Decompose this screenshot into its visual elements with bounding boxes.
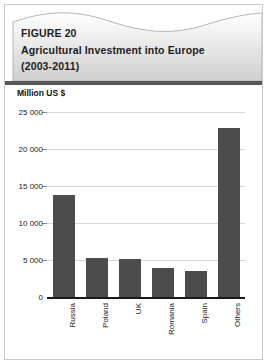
bar-russia [53, 195, 75, 297]
y-tick-label-15000: 15 000 [19, 182, 43, 191]
gridline-5000 [47, 260, 245, 261]
figure-number: FIGURE 20 [21, 25, 246, 41]
bar-romania [152, 268, 174, 297]
figure-header: FIGURE 20 Agricultural Investment into E… [5, 5, 262, 81]
plot-area: 0 5 00010 00015 00020 00025 000RussiaPol… [5, 85, 262, 360]
bar-poland [86, 258, 108, 297]
y-tick-label-20000: 20 000 [19, 145, 43, 154]
y-tick-label-10000: 10 000 [19, 219, 43, 228]
bar-chart: Million US $ 0 5 00010 00015 00020 00025… [5, 85, 262, 360]
x-tick-label-poland: Poland [101, 303, 110, 328]
bar-spain [185, 271, 207, 297]
y-tick-label-5000: 5 000 [23, 256, 43, 265]
gridline-25000 [47, 112, 245, 113]
figure-title: Agricultural Investment into Europe [21, 42, 246, 58]
x-tick-label-uk: UK [134, 303, 143, 314]
x-tick-label-russia: Russia [68, 303, 77, 327]
figure-header-text: FIGURE 20 Agricultural Investment into E… [21, 25, 246, 74]
figure-card: FIGURE 20 Agricultural Investment into E… [4, 4, 263, 360]
y-tick-label-0: 0 [39, 293, 43, 302]
x-tick-label-others: Others [233, 303, 242, 327]
bar-others [218, 128, 240, 297]
x-tick-label-spain: Spain [200, 303, 209, 323]
gridline-10000 [47, 223, 245, 224]
bar-uk [119, 259, 141, 297]
figure-period: (2003-2011) [21, 58, 246, 74]
y-tick-label-25000: 25 000 [19, 108, 43, 117]
x-tick-label-romania: Romania [167, 303, 176, 335]
x-axis-line [47, 297, 245, 299]
gridline-15000 [47, 186, 245, 187]
gridline-20000 [47, 149, 245, 150]
